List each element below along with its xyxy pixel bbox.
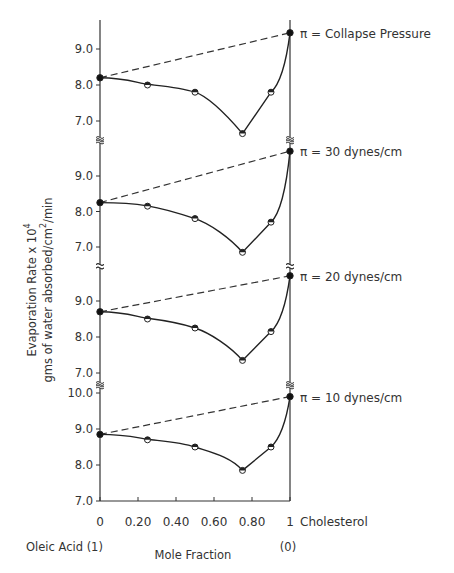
y-tick-label: 9.0 <box>75 294 93 308</box>
panel-1: 7.08.09.0π = Collapse Pressure <box>75 20 431 142</box>
x-tick-label: 0.60 <box>201 515 228 529</box>
panel-4: 7.08.09.010.0π = 10 dynes/cm <box>67 384 402 509</box>
ideal-mixing-dashed-line <box>100 276 290 312</box>
axis-break-icon <box>96 264 104 270</box>
y-axis-label-exponent: 4 <box>23 223 32 228</box>
y-tick-label: 8.0 <box>75 330 93 344</box>
panel-2: 7.08.09.0π = 30 dynes/cm <box>75 139 403 270</box>
y-tick-label: 7.0 <box>75 240 93 254</box>
panel-pressure-label: π = 10 dynes/cm <box>300 391 402 405</box>
y-axis-label-line2-suffix: /min <box>41 197 55 223</box>
x-axis-right-label: (0) <box>280 540 296 554</box>
x-tick-label: 0.40 <box>163 515 190 529</box>
y-tick-label: 8.0 <box>75 205 93 219</box>
x-tick-label: 0.80 <box>239 515 266 529</box>
data-point <box>287 393 293 399</box>
ideal-mixing-dashed-line <box>100 151 290 202</box>
svg-text:Evaporation Rate x 104: Evaporation Rate x 104 <box>23 223 39 356</box>
measured-curve <box>100 276 290 361</box>
x-tick-label: 0 <box>96 515 104 529</box>
svg-text:gms of water absorbed/cm2/min: gms of water absorbed/cm2/min <box>39 197 55 382</box>
evaporation-rate-chart: 7.08.09.0π = Collapse Pressure7.08.09.0π… <box>0 0 454 573</box>
measured-curve <box>100 151 290 252</box>
x-axis: 00.200.400.600.801 <box>96 497 294 529</box>
y-tick-label: 9.0 <box>75 169 93 183</box>
panel-pressure-label: π = Collapse Pressure <box>300 27 431 41</box>
data-point <box>97 309 103 315</box>
y-tick-label: 7.0 <box>75 366 93 380</box>
y-tick-label: 9.0 <box>75 42 93 56</box>
ideal-mixing-dashed-line <box>100 397 290 435</box>
x-tick-label: 0.20 <box>125 515 152 529</box>
y-tick-label: 10.0 <box>67 386 93 400</box>
axis-break-icon <box>286 264 294 270</box>
y-tick-label: 7.0 <box>75 494 93 508</box>
data-point <box>97 75 103 81</box>
x-axis-left-label: Oleic Acid (1) <box>26 540 103 554</box>
y-tick-label: 7.0 <box>75 114 93 128</box>
data-point <box>97 431 103 437</box>
y-axis-label-line1: Evaporation Rate x 10 <box>25 229 39 357</box>
panel-pressure-label: π = 30 dynes/cm <box>300 145 402 159</box>
measured-curve <box>100 33 290 134</box>
chart-panels: 7.08.09.0π = Collapse Pressure7.08.09.0π… <box>67 20 431 508</box>
y-tick-label: 9.0 <box>75 422 93 436</box>
x-axis-title: Mole Fraction <box>155 548 232 562</box>
ideal-mixing-dashed-line <box>100 33 290 78</box>
x-axis-end-label: Cholesterol <box>300 515 368 529</box>
y-axis-label: Evaporation Rate x 104 gms of water abso… <box>23 197 55 382</box>
panel-pressure-label: π = 20 dynes/cm <box>300 270 402 284</box>
data-point <box>287 30 293 36</box>
data-point <box>287 148 293 154</box>
data-point <box>97 199 103 205</box>
y-tick-label: 8.0 <box>75 458 93 472</box>
y-axis-label-line2: gms of water absorbed/cm <box>41 228 55 383</box>
measured-curve <box>100 397 290 471</box>
x-tick-label: 1 <box>286 515 294 529</box>
panel-3: 7.08.09.0π = 20 dynes/cm <box>75 264 403 388</box>
y-tick-label: 8.0 <box>75 78 93 92</box>
data-point <box>287 273 293 279</box>
